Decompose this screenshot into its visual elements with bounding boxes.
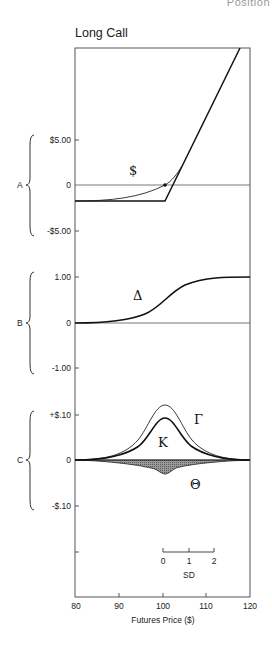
sd-label: SD	[183, 570, 195, 580]
xtick-110: 110	[199, 601, 213, 611]
panel-label-a: A	[17, 180, 23, 190]
expiration-payoff-line	[75, 48, 240, 201]
label-dollar: $	[129, 163, 137, 178]
brace-b	[26, 272, 34, 374]
ytick-b-bottom: -1.00	[52, 363, 72, 373]
xtick-90: 90	[114, 601, 124, 611]
ytick-c-zero: 0	[66, 455, 71, 465]
label-gamma: Γ	[194, 412, 203, 427]
panel-a: A $5.00 0 -$5.00 $	[17, 48, 250, 236]
delta-curve	[75, 277, 250, 323]
label-delta: Δ	[133, 288, 142, 303]
panel-b: B 1.00 0 -1.00 Δ	[17, 272, 250, 374]
brace-a	[26, 135, 34, 236]
xtick-120: 120	[243, 601, 257, 611]
x-axis-title: Futures Price ($)	[131, 615, 194, 625]
sd-tick-0: 0	[161, 556, 166, 566]
strike-marker	[163, 183, 167, 187]
xtick-100: 100	[156, 601, 170, 611]
sd-scale: 0 1 2 SD	[161, 548, 217, 580]
long-call-chart: A $5.00 0 -$5.00 $ B 1.00 0 -1.00 Δ C +$…	[0, 0, 272, 656]
panel-label-b: B	[17, 318, 23, 328]
ytick-c-top: +$.10	[49, 410, 71, 420]
panel-label-c: C	[17, 455, 23, 465]
gamma-curve	[75, 405, 250, 460]
xtick-80: 80	[71, 601, 81, 611]
label-theta: Θ	[190, 477, 201, 492]
theta-area	[75, 460, 250, 474]
ytick-c-bottom: -$.10	[52, 501, 72, 511]
ytick-a-bottom: -$5.00	[47, 226, 71, 236]
sd-tick-1: 1	[187, 556, 192, 566]
x-axis: 80 90 100 110 120 Futures Price ($)	[71, 593, 257, 625]
sd-tick-2: 2	[212, 556, 217, 566]
label-kappa: K	[158, 435, 168, 450]
ytick-b-zero: 0	[66, 318, 71, 328]
ytick-b-top: 1.00	[54, 272, 71, 282]
panel-c: C +$.10 0 -$.10 Γ K Θ	[17, 405, 250, 511]
ytick-a-zero: 0	[66, 180, 71, 190]
ytick-a-top: $5.00	[50, 135, 72, 145]
brace-c	[26, 411, 34, 510]
